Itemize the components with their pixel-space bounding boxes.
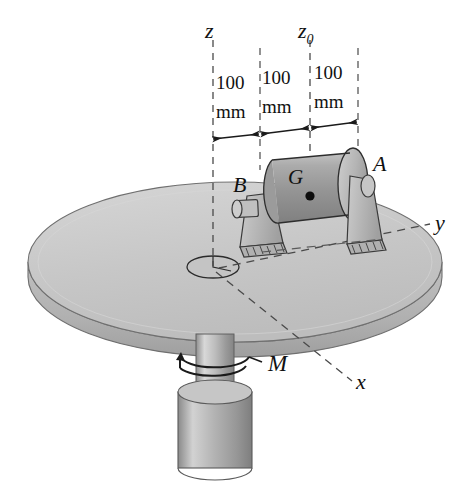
bearing-b-stub (232, 199, 258, 218)
x-axis-label: x (355, 369, 366, 394)
bearing-b-label: B (233, 172, 246, 197)
bearing-a-stub (361, 175, 375, 197)
moment-label: M (267, 351, 289, 376)
disk-center-hole (187, 256, 239, 278)
dim-unit-3: mm (314, 91, 344, 112)
dim-value-2: 100 (262, 67, 291, 88)
dimension-lines (213, 122, 357, 139)
base-bottom-edge (178, 468, 252, 480)
base-top-face (178, 380, 252, 404)
dim-unit-2: mm (262, 96, 292, 117)
dim-line-3 (311, 122, 357, 128)
z0-base: z (297, 18, 307, 43)
dim-line-1 (213, 134, 259, 139)
dim-value-1: 100 (216, 72, 245, 93)
z0-sub: 0 (307, 32, 314, 47)
dim-unit-1: mm (216, 101, 246, 122)
center-of-mass-label: G (288, 165, 303, 189)
figure-container: M (0, 0, 471, 484)
z0-axis-label: z0 (297, 18, 314, 47)
mechanics-diagram: M (0, 0, 471, 484)
center-of-mass-dot (305, 191, 314, 200)
dim-line-2 (261, 128, 309, 134)
y-axis-label: y (433, 210, 445, 235)
bearing-a-label: A (371, 151, 387, 176)
z-axis-label: z (204, 18, 214, 43)
dim-value-3: 100 (314, 62, 343, 83)
